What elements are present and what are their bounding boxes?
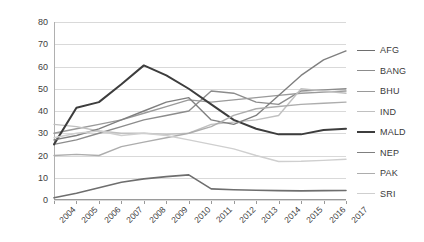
plot-area bbox=[54, 22, 346, 200]
x-tick-mark-2008 bbox=[144, 201, 145, 204]
legend-label-pak: PAK bbox=[380, 168, 398, 178]
y-axis-tick-labels: 01020304050607080 bbox=[0, 22, 48, 200]
y-tick-label-10: 10 bbox=[2, 173, 48, 183]
x-tick-label-2011: 2011 bbox=[214, 204, 234, 224]
legend-swatch-bang bbox=[357, 70, 375, 71]
chart-legend: AFGBANGBHUINDMALDNEPPAKSRI bbox=[357, 40, 423, 204]
legend-item-mald[interactable]: MALD bbox=[357, 122, 423, 143]
legend-label-mald: MALD bbox=[380, 127, 406, 137]
legend-item-ind[interactable]: IND bbox=[357, 102, 423, 123]
x-tick-label-2004: 2004 bbox=[57, 204, 77, 224]
legend-label-bang: BANG bbox=[380, 66, 406, 76]
y-tick-label-60: 60 bbox=[2, 62, 48, 72]
legend-label-afg: AFG bbox=[380, 45, 399, 55]
y-tick-label-20: 20 bbox=[2, 151, 48, 161]
legend-label-sri: SRI bbox=[380, 189, 396, 199]
x-tick-mark-2005 bbox=[76, 201, 77, 204]
x-tick-label-2006: 2006 bbox=[102, 204, 122, 224]
series-lines bbox=[54, 22, 346, 200]
legend-item-afg[interactable]: AFG bbox=[357, 40, 423, 61]
x-axis-tick-labels: 2004200520062007200820092010201120122013… bbox=[54, 201, 346, 241]
x-tick-mark-2012 bbox=[234, 201, 235, 204]
legend-swatch-pak bbox=[357, 173, 375, 174]
x-tick-mark-2010 bbox=[189, 201, 190, 204]
y-tick-label-80: 80 bbox=[2, 17, 48, 27]
x-tick-mark-2014 bbox=[279, 201, 280, 204]
y-tick-label-50: 50 bbox=[2, 84, 48, 94]
x-tick-mark-2017 bbox=[346, 201, 347, 204]
x-tick-label-2016: 2016 bbox=[327, 204, 347, 224]
y-tick-label-0: 0 bbox=[2, 195, 48, 205]
x-tick-label-2009: 2009 bbox=[169, 204, 189, 224]
x-tick-mark-2016 bbox=[324, 201, 325, 204]
x-tick-label-2007: 2007 bbox=[125, 204, 145, 224]
x-tick-label-2015: 2015 bbox=[304, 204, 324, 224]
x-tick-mark-2013 bbox=[256, 201, 257, 204]
legend-swatch-mald bbox=[357, 131, 375, 133]
legend-label-ind: IND bbox=[380, 107, 396, 117]
x-tick-mark-2004 bbox=[54, 201, 55, 204]
legend-item-nep[interactable]: NEP bbox=[357, 143, 423, 164]
legend-label-bhu: BHU bbox=[380, 86, 400, 96]
legend-label-nep: NEP bbox=[380, 148, 399, 158]
y-tick-label-40: 40 bbox=[2, 106, 48, 116]
x-tick-mark-2007 bbox=[121, 201, 122, 204]
legend-swatch-sri bbox=[357, 193, 375, 194]
x-tick-label-2012: 2012 bbox=[237, 204, 257, 224]
x-tick-mark-2015 bbox=[301, 201, 302, 204]
x-tick-label-2013: 2013 bbox=[259, 204, 279, 224]
legend-item-pak[interactable]: PAK bbox=[357, 163, 423, 184]
y-tick-label-70: 70 bbox=[2, 39, 48, 49]
x-tick-mark-2009 bbox=[166, 201, 167, 204]
series-line-afg bbox=[54, 175, 346, 198]
x-tick-label-2005: 2005 bbox=[80, 204, 100, 224]
legend-swatch-afg bbox=[357, 50, 375, 51]
x-tick-label-2008: 2008 bbox=[147, 204, 167, 224]
legend-item-bang[interactable]: BANG bbox=[357, 61, 423, 82]
x-tick-label-2014: 2014 bbox=[282, 204, 302, 224]
legend-swatch-nep bbox=[357, 152, 375, 153]
legend-item-sri[interactable]: SRI bbox=[357, 184, 423, 205]
legend-swatch-ind bbox=[357, 111, 375, 112]
series-line-sri bbox=[54, 131, 346, 161]
chart-container: 01020304050607080 2004200520062007200820… bbox=[0, 0, 424, 242]
y-tick-label-30: 30 bbox=[2, 128, 48, 138]
legend-swatch-bhu bbox=[357, 91, 375, 92]
x-tick-label-2010: 2010 bbox=[192, 204, 212, 224]
x-tick-mark-2006 bbox=[99, 201, 100, 204]
x-tick-label-2017: 2017 bbox=[349, 204, 369, 224]
x-tick-mark-2011 bbox=[211, 201, 212, 204]
legend-item-bhu[interactable]: BHU bbox=[357, 81, 423, 102]
